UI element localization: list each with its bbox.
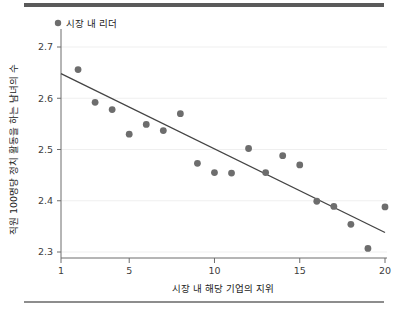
data-point[interactable] xyxy=(194,160,201,167)
data-point[interactable] xyxy=(313,198,320,205)
data-point[interactable] xyxy=(126,131,133,138)
data-point[interactable] xyxy=(296,161,303,168)
trendline xyxy=(61,74,385,233)
data-point[interactable] xyxy=(245,145,252,152)
x-axis-tick-label: 15 xyxy=(294,265,306,276)
datapoints-group xyxy=(75,66,389,252)
y-axis-title: 직원 100명당 정치 활동을 하는 남녀의 수 xyxy=(8,64,19,235)
scatter-plot-canvas: 2.32.42.52.62.7 15101520 시장 내 리더 시장 내 해당… xyxy=(0,0,407,317)
data-point[interactable] xyxy=(177,110,184,117)
data-point[interactable] xyxy=(92,99,99,106)
y-axis-tick-label: 2.6 xyxy=(38,93,53,104)
gridlines-group xyxy=(61,47,387,252)
y-axis-group: 2.32.42.52.62.7 xyxy=(38,29,61,258)
data-point[interactable] xyxy=(75,66,82,73)
data-point[interactable] xyxy=(365,245,372,252)
legend-marker-icon xyxy=(55,20,61,26)
data-point[interactable] xyxy=(211,169,218,176)
x-axis-group: 15101520 xyxy=(58,258,391,276)
trendline-group xyxy=(61,74,385,233)
data-point[interactable] xyxy=(160,127,167,134)
data-point[interactable] xyxy=(228,170,235,177)
data-point[interactable] xyxy=(109,106,116,113)
y-axis-tick-label: 2.4 xyxy=(38,195,53,206)
x-axis-tick-label: 1 xyxy=(58,265,64,276)
data-point[interactable] xyxy=(143,121,150,128)
x-axis-tick-label: 5 xyxy=(126,265,132,276)
y-axis-tick-label: 2.3 xyxy=(38,246,53,257)
x-axis-title: 시장 내 해당 기업의 지위 xyxy=(172,283,274,294)
data-point[interactable] xyxy=(262,169,269,176)
y-axis-tick-label: 2.5 xyxy=(38,144,53,155)
legend-group: 시장 내 리더 xyxy=(55,18,117,29)
y-axis-tick-label: 2.7 xyxy=(38,41,53,52)
x-axis-tick-label: 20 xyxy=(379,265,391,276)
legend-label[interactable]: 시장 내 리더 xyxy=(66,18,117,29)
x-axis-tick-label: 10 xyxy=(208,265,220,276)
data-point[interactable] xyxy=(382,204,389,211)
data-point[interactable] xyxy=(330,203,337,210)
data-point[interactable] xyxy=(347,221,354,228)
data-point[interactable] xyxy=(279,152,286,159)
chart-figure: 2.32.42.52.62.7 15101520 시장 내 리더 시장 내 해당… xyxy=(0,0,407,317)
